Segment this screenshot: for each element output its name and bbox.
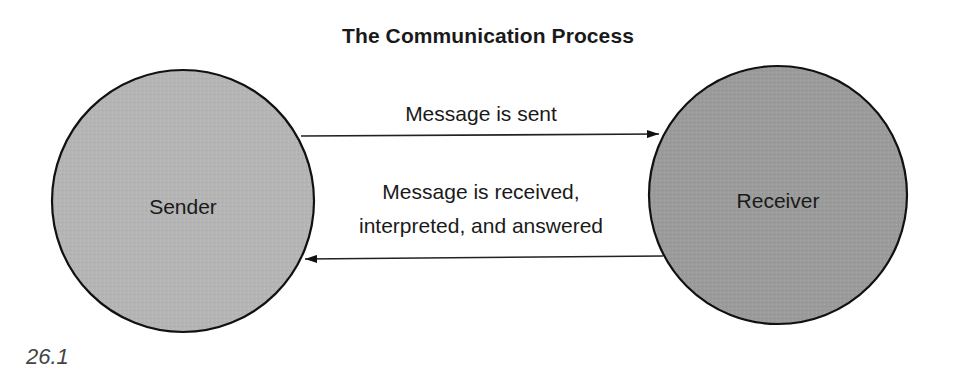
receiver-label: Receiver (688, 189, 868, 213)
sender-label: Sender (93, 195, 273, 219)
figure-number: 26.1 (26, 344, 69, 368)
diagram-title: The Communication Process (0, 24, 976, 48)
message-returned-line-1: Message is received, (316, 175, 646, 209)
message-sent-arrow (301, 134, 659, 136)
message-returned-line-2: interpreted, and answered (316, 209, 646, 243)
message-sent-label: Message is sent (331, 97, 631, 131)
message-returned-arrow (305, 256, 663, 259)
message-returned-label: Message is received, interpreted, and an… (316, 175, 646, 243)
